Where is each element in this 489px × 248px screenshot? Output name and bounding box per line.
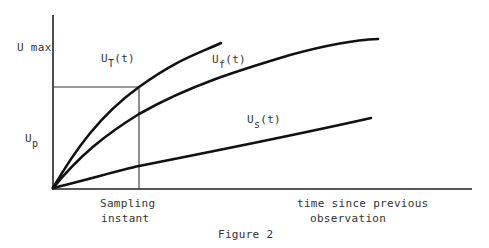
y-label-up: Up bbox=[25, 133, 38, 145]
figure-caption: Figure 2 bbox=[218, 229, 273, 241]
label-curve-Us: Us(t) bbox=[247, 114, 281, 126]
x-label-line1: time since previous bbox=[297, 198, 429, 210]
diagram-canvas bbox=[0, 0, 489, 248]
label-curve-UT: UT(t) bbox=[101, 53, 135, 65]
label-curve-Uf: Uf(t) bbox=[212, 54, 246, 66]
x-label-line2: observation bbox=[310, 213, 386, 225]
y-label-up-sub: p bbox=[32, 138, 38, 149]
y-label-umax: U max bbox=[17, 42, 52, 54]
y-label-up-main: U bbox=[25, 132, 32, 145]
curve-Us bbox=[53, 118, 371, 188]
label-sampling-line1: Sampling bbox=[100, 198, 155, 210]
figure-2-diagram: U max Up UT(t) Uf(t) Us(t) Sampling inst… bbox=[0, 0, 489, 248]
label-sampling-line2: instant bbox=[101, 213, 149, 225]
